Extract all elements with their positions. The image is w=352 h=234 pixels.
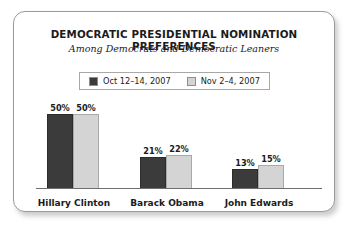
bar-value-label-obama-nov: 22% xyxy=(164,144,194,154)
legend-swatch-icon-series-2 xyxy=(187,77,196,86)
bar-edwards-nov[interactable] xyxy=(258,165,284,189)
bar-edwards-oct[interactable] xyxy=(232,169,258,189)
bar-obama-nov[interactable] xyxy=(166,155,192,189)
bar-group-barack-obama: 21% 22% xyxy=(140,107,194,189)
legend-swatch-icon-series-1 xyxy=(89,77,98,86)
x-axis-line xyxy=(36,188,322,189)
bar-value-label-edwards-nov: 15% xyxy=(256,154,286,164)
bar-group-john-edwards: 13% 15% xyxy=(232,107,286,189)
legend-label-series-1: Oct 12–14, 2007 xyxy=(103,76,171,86)
chart-legend: Oct 12–14, 2007 Nov 2–4, 2007 xyxy=(79,72,270,90)
chart-screenshot: DEMOCRATIC PRESIDENTIAL NOMINATION PREFE… xyxy=(0,0,352,234)
legend-item-series-2[interactable]: Nov 2–4, 2007 xyxy=(187,76,260,86)
bar-value-label-clinton-nov: 50% xyxy=(71,103,101,113)
bar-obama-oct[interactable] xyxy=(140,157,166,189)
legend-label-series-2: Nov 2–4, 2007 xyxy=(201,76,260,86)
chart-subtitle: Among Democrats and Democratic Leaners xyxy=(14,43,334,54)
bar-clinton-oct[interactable] xyxy=(47,114,73,189)
category-label-john-edwards: John Edwards xyxy=(204,198,314,208)
chart-card: DEMOCRATIC PRESIDENTIAL NOMINATION PREFE… xyxy=(13,11,335,212)
plot-area: 50% 50% 21% 22% 13% 15% xyxy=(36,107,318,189)
bar-clinton-nov[interactable] xyxy=(73,114,99,189)
bar-group-hillary-clinton: 50% 50% xyxy=(47,107,101,189)
legend-item-series-1[interactable]: Oct 12–14, 2007 xyxy=(89,76,171,86)
